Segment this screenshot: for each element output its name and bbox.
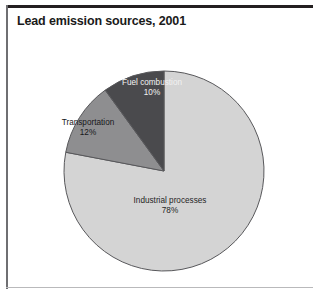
pie-chart-svg [0,0,315,294]
pie-chart: Industrial processes 78% Transportation … [0,0,315,294]
chart-figure: Lead emission sources, 2001 Industrial p… [0,0,315,294]
pie-slice-group [64,71,264,271]
